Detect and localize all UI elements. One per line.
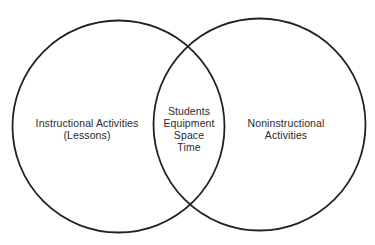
left-set-label-line-2: (Lessons) (26, 129, 148, 141)
left-set-label-line-1: Instructional Activities (26, 117, 148, 129)
right-set-label: Noninstructional Activities (230, 117, 342, 141)
intersection-label-line-4: Time (154, 141, 224, 153)
intersection-label-line-1: Students (154, 105, 224, 117)
intersection-label-line-2: Equipment (154, 117, 224, 129)
intersection-label: Students Equipment Space Time (154, 105, 224, 153)
left-set-label: Instructional Activities (Lessons) (26, 117, 148, 141)
right-set-label-line-1: Noninstructional (230, 117, 342, 129)
venn-diagram: Instructional Activities (Lessons) Stude… (0, 0, 375, 245)
right-set-label-line-2: Activities (230, 129, 342, 141)
intersection-label-line-3: Space (154, 129, 224, 141)
